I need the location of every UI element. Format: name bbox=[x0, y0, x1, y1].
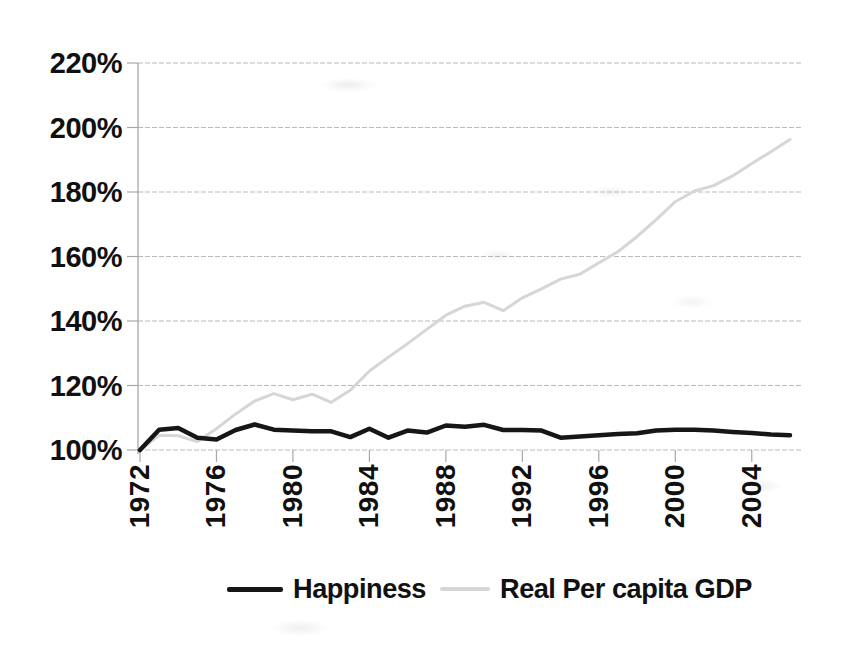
gdp-legend-swatch bbox=[440, 587, 490, 591]
chart-figure: 100%120%140%160%180%200%220%197219761980… bbox=[0, 0, 850, 645]
y-axis-label: 160% bbox=[50, 241, 123, 273]
y-axis-label: 100% bbox=[50, 434, 123, 466]
x-axis-label: 1984 bbox=[353, 464, 384, 528]
x-axis-label: 2000 bbox=[659, 464, 690, 528]
happiness-legend-label: Happiness bbox=[293, 573, 426, 605]
x-axis-label: 1996 bbox=[583, 464, 614, 528]
x-axis-label: 1980 bbox=[277, 464, 308, 528]
happiness-line bbox=[140, 425, 790, 451]
gdp-legend-label: Real Per capita GDP bbox=[500, 573, 752, 605]
y-axis-label: 180% bbox=[50, 176, 123, 208]
x-axis-label: 1992 bbox=[506, 464, 537, 528]
gdp-line bbox=[140, 139, 790, 450]
y-axis-label: 120% bbox=[50, 370, 123, 402]
y-axis-label: 140% bbox=[50, 305, 123, 337]
line-chart: 100%120%140%160%180%200%220%197219761980… bbox=[0, 0, 850, 645]
x-axis-label: 2004 bbox=[736, 464, 767, 528]
y-axis-label: 220% bbox=[50, 47, 123, 79]
y-axis-label: 200% bbox=[50, 112, 123, 144]
x-axis-label: 1976 bbox=[200, 464, 231, 528]
x-axis-label: 1988 bbox=[430, 464, 461, 528]
chart-legend: Happiness Real Per capita GDP bbox=[0, 574, 850, 604]
x-axis-label: 1972 bbox=[124, 464, 155, 528]
happiness-legend-swatch bbox=[227, 587, 283, 592]
